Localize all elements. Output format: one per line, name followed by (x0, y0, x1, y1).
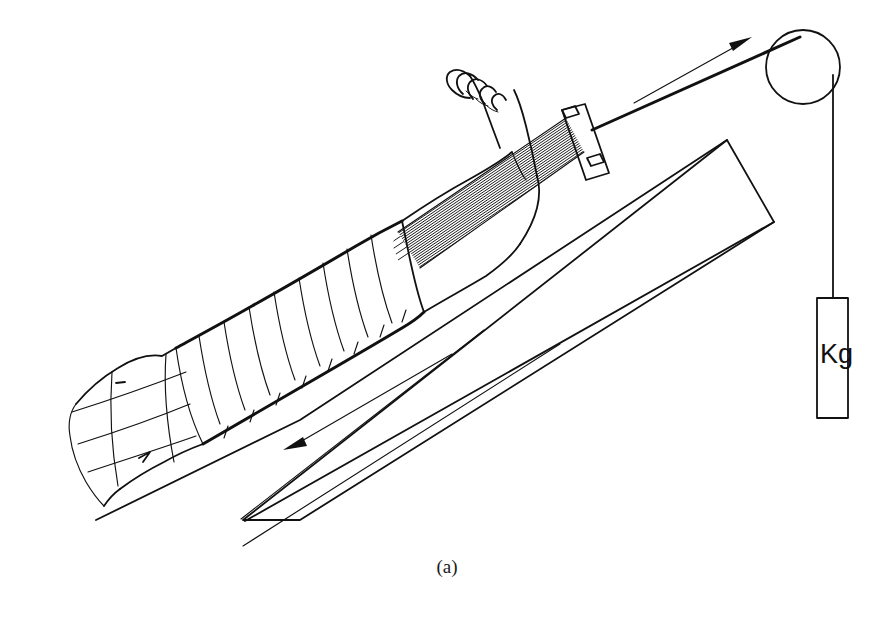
bandaged-thigh (176, 221, 424, 444)
traction-diagram: Kg (a) (0, 0, 894, 622)
traction-force-arrow (634, 37, 752, 103)
pulley (766, 30, 840, 104)
strap-hatching (384, 72, 628, 280)
counter-traction-arrow (283, 354, 452, 450)
diagram-ink: Kg (a) (69, 30, 853, 578)
traction-straps (380, 72, 628, 280)
figure-caption: (a) (436, 556, 457, 578)
bed-board (96, 140, 774, 521)
patient-torso (69, 348, 203, 506)
weight-label: Kg (820, 339, 853, 369)
figure-panel: Kg (a) (0, 0, 894, 622)
